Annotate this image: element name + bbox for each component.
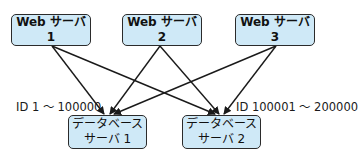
web-server-3-label: Web サーバ 3: [236, 15, 314, 45]
db-server-2-line1: データベース: [186, 117, 257, 132]
web-server-2-node: Web サーバ 2: [122, 14, 202, 46]
db-server-1-node: データベース サーバ 1: [68, 115, 147, 149]
db1-id-range-label: ID 1 ～ 100000: [16, 98, 101, 114]
edge-web2-db1: [110, 46, 160, 114]
web-server-3-node: Web サーバ 3: [235, 14, 315, 46]
db2-id-range-label: ID 100001 ～ 200000: [236, 98, 358, 114]
db-server-1-line1: データベース: [72, 117, 143, 132]
web-server-1-label: Web サーバ 1: [12, 15, 90, 45]
web-server-1-node: Web サーバ 1: [11, 14, 91, 46]
db-server-2-line2: サーバ 2: [198, 132, 245, 147]
web-server-2-label: Web サーバ 2: [123, 15, 201, 45]
db-server-1-line2: サーバ 1: [84, 132, 131, 147]
db-server-2-node: データベース サーバ 2: [182, 115, 261, 149]
